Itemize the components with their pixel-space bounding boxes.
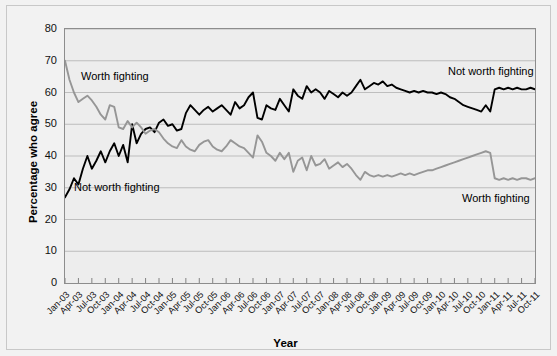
x-axis-labels: Jan-03Apr-03Jul-03Oct-03Jan-04Apr-04Jul-… — [7, 6, 557, 356]
x-axis-title: Year — [7, 337, 557, 349]
chart-screenshot: Percentage who agree 01020304050607080 W… — [0, 0, 557, 356]
chart-frame: Percentage who agree 01020304050607080 W… — [6, 5, 551, 350]
